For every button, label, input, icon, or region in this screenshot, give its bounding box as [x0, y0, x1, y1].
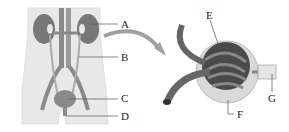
- label-f: F: [237, 109, 243, 120]
- label-c: C: [121, 93, 128, 104]
- label-d: D: [121, 111, 129, 122]
- label-e: E: [206, 10, 213, 21]
- glomerulus: [163, 25, 276, 105]
- diagram-stage: A B C D E F G: [0, 0, 289, 132]
- magnify-arrow-icon: [104, 31, 166, 56]
- label-b: B: [121, 52, 128, 63]
- label-a: A: [121, 19, 129, 30]
- label-g: G: [268, 93, 276, 104]
- diagram-art: [0, 0, 289, 132]
